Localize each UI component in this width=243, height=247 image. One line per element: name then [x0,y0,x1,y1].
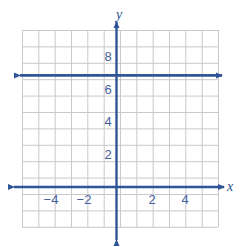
y-tick-label-2: 2 [104,147,111,162]
y-tick-label-4: 4 [104,114,111,129]
x-axis-label: x [226,179,234,194]
graph-canvas: x y −4 −2 2 4 2 4 6 8 [0,0,243,247]
y-tick-label-6: 6 [104,82,111,97]
x-tick-label-pos4: 4 [181,192,188,207]
y-tick-label-8: 8 [104,49,111,64]
x-tick-label-pos2: 2 [148,192,155,207]
x-tick-label-neg4: −4 [44,192,59,207]
coordinate-plane-figure: x y −4 −2 2 4 2 4 6 8 [0,0,243,247]
y-axis-label: y [114,7,123,22]
x-tick-label-neg2: −2 [77,192,92,207]
